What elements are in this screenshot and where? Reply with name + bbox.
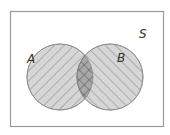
universal-set-label: S	[139, 27, 147, 41]
set-b-label: B	[117, 51, 125, 65]
set-a-label: A	[26, 52, 35, 66]
venn-diagram: A B S	[0, 0, 170, 135]
